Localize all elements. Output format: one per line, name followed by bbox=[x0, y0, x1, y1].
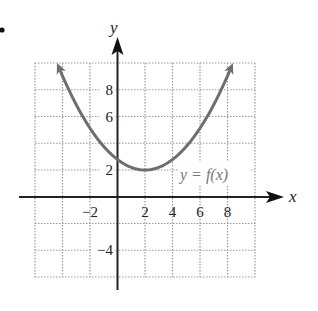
y-axis-label: y bbox=[108, 18, 118, 37]
x-tick-label: 4 bbox=[169, 204, 177, 220]
x-tick-label: 6 bbox=[196, 204, 204, 220]
function-graph: x y −22468 862−4 y = f(x) bbox=[0, 0, 318, 311]
curve-label: y = f(x) bbox=[178, 166, 228, 184]
x-tick-label: −2 bbox=[82, 204, 98, 220]
y-tick-label: 2 bbox=[106, 162, 114, 178]
y-tick-label: −4 bbox=[97, 242, 113, 258]
x-tick-label: 2 bbox=[141, 204, 149, 220]
y-tick-label: 6 bbox=[106, 109, 114, 125]
x-axis bbox=[19, 191, 284, 203]
x-axis-label: x bbox=[288, 187, 297, 206]
bullet-icon bbox=[0, 27, 5, 32]
x-tick-labels: −22468 bbox=[82, 204, 231, 220]
y-tick-label: 8 bbox=[106, 82, 114, 98]
x-tick-label: 8 bbox=[224, 204, 232, 220]
